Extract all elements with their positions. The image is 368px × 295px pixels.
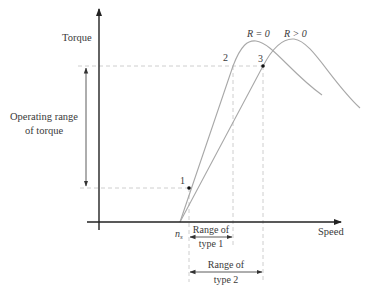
point-2-label: 2 xyxy=(223,52,228,63)
operating-range-label-line2: of torque xyxy=(25,125,64,136)
torque-speed-diagram: Torque Speed ns Operating range of torqu… xyxy=(0,0,368,295)
point-1-marker xyxy=(187,186,191,190)
origin-label-sub: s xyxy=(180,233,183,241)
curve-r-equals-0 xyxy=(180,41,322,222)
point-3-marker xyxy=(261,64,265,68)
point-1-label: 1 xyxy=(180,175,185,186)
range-type1-label-line2: type 1 xyxy=(199,238,224,249)
curve-r-equals-0-label: R = 0 xyxy=(246,28,270,39)
x-axis-label: Speed xyxy=(318,226,344,237)
point-3-label: 3 xyxy=(258,53,263,64)
guide-lines xyxy=(78,66,264,282)
y-axis-label: Torque xyxy=(62,32,92,43)
range-type2-label-line1: Range of xyxy=(208,259,245,270)
curve-r-greater-0-label: R > 0 xyxy=(283,28,307,39)
range-type1-label-line1: Range of xyxy=(193,224,230,235)
operating-range-label-line1: Operating range xyxy=(10,111,78,122)
range-type2-label-line2: type 2 xyxy=(214,274,239,285)
origin-label: ns xyxy=(175,228,183,241)
